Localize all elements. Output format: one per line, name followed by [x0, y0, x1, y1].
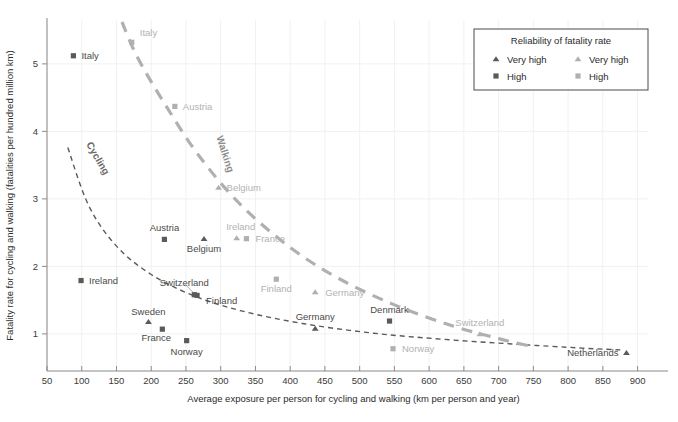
y-tick-label: 4 [33, 126, 38, 137]
data-point-cycling-ireland [78, 278, 83, 283]
x-tick-label: 900 [630, 375, 646, 386]
x-tick-label: 50 [42, 375, 53, 386]
point-label-walking-france: France [255, 233, 285, 244]
point-label-walking-belgium: Belgium [227, 182, 261, 193]
x-tick-label: 500 [352, 375, 368, 386]
legend-title: Reliability of fatality rate [511, 35, 611, 46]
x-tick-label: 800 [560, 375, 576, 386]
point-label-walking-finland: Finland [261, 283, 292, 294]
chart-figure: 5010015020025030035040045050055060065070… [0, 0, 678, 422]
x-tick-label: 300 [213, 375, 229, 386]
data-point-cycling-finland [194, 293, 199, 298]
x-tick-label: 600 [421, 375, 437, 386]
point-label-cycling-austria: Austria [150, 222, 180, 233]
legend-label-cycling-1: High [507, 71, 527, 82]
point-label-walking-germany: Germany [325, 287, 364, 298]
x-tick-label: 350 [248, 375, 264, 386]
x-tick-label: 250 [178, 375, 194, 386]
data-point-cycling-austria [162, 237, 167, 242]
x-tick-label: 750 [525, 375, 541, 386]
x-tick-label: 650 [456, 375, 472, 386]
point-label-cycling-italy: Italy [81, 50, 99, 61]
x-tick-label: 550 [386, 375, 402, 386]
point-label-cycling-finland: Finland [206, 295, 237, 306]
y-tick-label: 2 [33, 261, 38, 272]
point-label-walking-ireland: Ireland [226, 221, 255, 232]
data-point-cycling-france [160, 327, 165, 332]
legend-marker-walking-square [575, 73, 580, 78]
y-tick-label: 5 [33, 58, 38, 69]
point-label-cycling-denmark: Denmark [370, 304, 409, 315]
data-point-cycling-norway [184, 338, 189, 343]
x-tick-label: 700 [491, 375, 507, 386]
data-point-walking-france [244, 236, 249, 241]
point-label-walking-norway: Norway [402, 343, 434, 354]
chart-legend: Reliability of fatality rateVery highHig… [474, 29, 648, 90]
x-tick-label: 100 [74, 375, 90, 386]
point-label-walking-austria: Austria [183, 101, 213, 112]
data-point-walking-norway [390, 346, 395, 351]
legend-label-walking-0: Very high [589, 54, 629, 65]
point-label-cycling-germany: Germany [296, 311, 335, 322]
y-tick-label: 3 [33, 193, 38, 204]
data-point-cycling-denmark [387, 318, 392, 323]
data-point-walking-austria [172, 104, 177, 109]
point-label-cycling-belgium: Belgium [187, 243, 221, 254]
y-tick-label: 1 [33, 328, 38, 339]
point-label-cycling-ireland: Ireland [89, 275, 118, 286]
legend-marker-cycling-square [493, 73, 498, 78]
y-axis-title: Fatality rate for cycling and walking (f… [4, 50, 15, 340]
point-label-cycling-france: France [142, 332, 172, 343]
data-point-walking-italy [129, 40, 134, 45]
legend-label-cycling-0: Very high [507, 54, 547, 65]
x-tick-label: 200 [143, 375, 159, 386]
point-label-cycling-norway: Norway [171, 346, 203, 357]
point-label-walking-italy: Italy [140, 27, 158, 38]
x-axis-title: Average exposure per person for cycling … [187, 393, 520, 404]
legend-label-walking-1: High [589, 71, 609, 82]
x-tick-label: 850 [595, 375, 611, 386]
data-point-walking-finland [274, 277, 279, 282]
data-point-cycling-italy [71, 53, 76, 58]
x-tick-label: 450 [317, 375, 333, 386]
scatter-plot-svg: 5010015020025030035040045050055060065070… [0, 0, 678, 422]
point-label-cycling-switzerland: Switzerland [160, 277, 209, 288]
x-tick-label: 400 [282, 375, 298, 386]
point-label-walking-switzerland: Switzerland [455, 317, 504, 328]
point-label-cycling-sweden: Sweden [131, 306, 165, 317]
point-label-cycling-netherlands: Netherlands [567, 347, 618, 358]
x-tick-label: 150 [109, 375, 125, 386]
